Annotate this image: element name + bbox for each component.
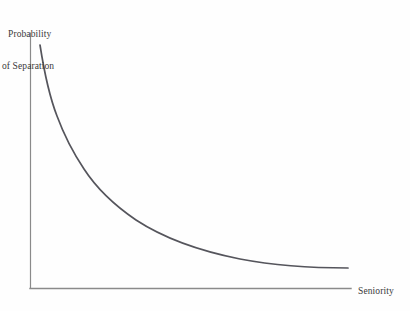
y-axis-label-line2: of Separation <box>2 61 54 72</box>
y-axis-label-line1: Probability <box>2 29 54 40</box>
x-axis-label: Seniority <box>358 286 394 297</box>
plot-area <box>0 0 410 311</box>
y-axis-label: Probability of Separation <box>2 8 54 92</box>
separation-probability-curve <box>40 45 348 268</box>
chart-figure: Probability of Separation Seniority <box>0 0 410 311</box>
